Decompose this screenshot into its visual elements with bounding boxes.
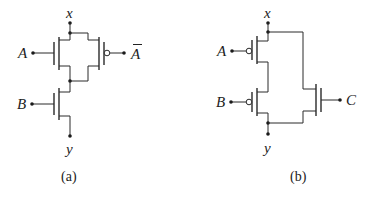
terminal-y-b bbox=[266, 132, 270, 136]
caption-b: (b) bbox=[290, 170, 306, 184]
circuit-b bbox=[229, 21, 342, 136]
overbar bbox=[133, 44, 142, 45]
label-B-b: B bbox=[216, 95, 225, 110]
caption-a: (a) bbox=[61, 170, 77, 184]
transistor-a-nmos-B bbox=[30, 81, 70, 136]
label-C-b: C bbox=[346, 93, 356, 108]
transistor-a-nmos-A bbox=[31, 37, 59, 70]
transistor-b-pmos-B bbox=[229, 88, 268, 134]
label-y-a: y bbox=[66, 142, 73, 157]
label-Abar-a: A bbox=[131, 47, 140, 62]
label-B-a: B bbox=[17, 97, 26, 112]
terminal-y-a bbox=[68, 134, 72, 138]
label-x-a: x bbox=[66, 6, 73, 21]
circuit-diagram bbox=[0, 0, 370, 198]
transistor-a-pmos-Abar bbox=[99, 37, 126, 70]
transistor-b-pmos-A bbox=[230, 32, 268, 92]
label-A-b: A bbox=[217, 44, 226, 59]
label-A-a: A bbox=[18, 46, 27, 61]
circuit-a bbox=[30, 21, 126, 138]
label-y-b: y bbox=[264, 141, 271, 156]
transistor-b-nmos-C bbox=[268, 32, 342, 123]
label-x-b: x bbox=[264, 6, 271, 21]
